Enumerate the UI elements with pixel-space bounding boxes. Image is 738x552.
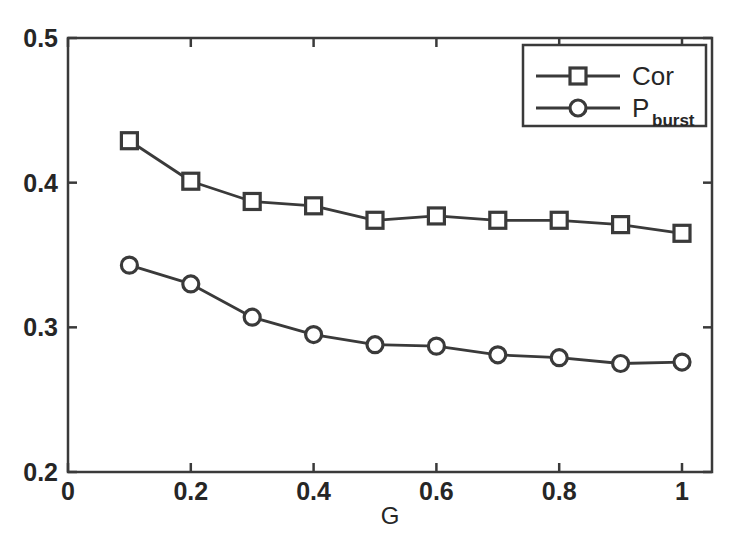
data-point-marker-circle <box>551 350 567 366</box>
data-point-marker-circle <box>367 337 383 353</box>
data-point-marker-square <box>674 225 690 241</box>
data-point-marker-circle <box>490 347 506 363</box>
line-chart: 00.20.40.60.81 0.20.30.40.5 G CorPburst <box>0 0 738 552</box>
data-point-marker-square <box>490 212 506 228</box>
data-point-marker-square <box>121 133 137 149</box>
x-tick-label: 1 <box>675 477 689 505</box>
y-axis-tick-labels: 0.20.30.40.5 <box>23 24 58 486</box>
data-point-marker-square <box>306 198 322 214</box>
series-line <box>129 141 682 234</box>
y-tick-label: 0.2 <box>23 458 58 486</box>
data-point-marker-circle <box>244 309 260 325</box>
x-tick-label: 0.6 <box>419 477 454 505</box>
y-tick-label: 0.3 <box>23 313 58 341</box>
data-point-marker-circle <box>306 327 322 343</box>
data-point-marker-circle <box>183 276 199 292</box>
y-tick-label: 0.4 <box>23 169 58 197</box>
data-series <box>121 133 690 242</box>
data-point-marker-square <box>613 217 629 233</box>
data-point-marker-square <box>244 193 260 209</box>
data-point-marker-square <box>428 208 444 224</box>
series-line <box>129 265 682 363</box>
data-point-marker-square <box>183 173 199 189</box>
data-point-marker-square <box>570 68 586 84</box>
data-point-marker-circle <box>674 354 690 370</box>
data-point-marker-square <box>367 212 383 228</box>
data-point-marker-circle <box>428 338 444 354</box>
x-tick-label: 0.4 <box>296 477 331 505</box>
data-series <box>121 257 690 371</box>
data-point-marker-circle <box>570 100 586 116</box>
x-axis-tick-labels: 00.20.40.60.81 <box>61 477 689 505</box>
x-tick-label: 0.2 <box>173 477 208 505</box>
legend: CorPburst <box>523 45 706 130</box>
legend-label: P <box>632 93 649 123</box>
data-point-marker-circle <box>613 356 629 372</box>
legend-label: Cor <box>632 61 674 91</box>
y-tick-label: 0.5 <box>23 24 58 52</box>
data-point-marker-circle <box>121 257 137 273</box>
data-point-marker-square <box>551 212 567 228</box>
legend-label-subscript: burst <box>652 111 695 130</box>
data-series-layer <box>121 133 690 372</box>
figure-container: 00.20.40.60.81 0.20.30.40.5 G CorPburst <box>0 0 738 552</box>
x-tick-label: 0.8 <box>542 477 577 505</box>
x-axis-title: G <box>381 502 400 529</box>
x-tick-label: 0 <box>61 477 75 505</box>
